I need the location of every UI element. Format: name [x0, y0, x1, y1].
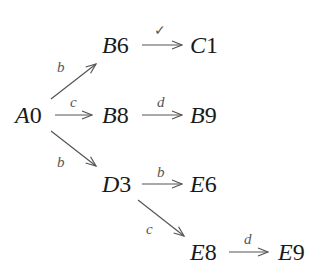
node-d3: D3 — [102, 172, 131, 196]
node-number: 3 — [119, 171, 131, 197]
edge-label-e8-e9: d — [244, 232, 252, 247]
node-number: 9 — [205, 102, 217, 128]
edge-layer — [0, 0, 323, 276]
node-number: 8 — [117, 102, 129, 128]
node-number: 6 — [117, 32, 129, 58]
checkmark-icon: ✓ — [154, 24, 166, 38]
node-e8: E8 — [190, 240, 217, 264]
edge-label-d3-e6: b — [157, 165, 165, 180]
node-letter: C — [190, 32, 206, 58]
node-number: 6 — [205, 171, 217, 197]
node-letter: D — [102, 171, 119, 197]
node-letter: B — [102, 102, 117, 128]
node-letter: E — [190, 239, 205, 265]
edge-label-a0-b6: b — [57, 60, 65, 75]
node-number: 0 — [30, 102, 42, 128]
node-c1: C1 — [190, 33, 218, 57]
node-letter: B — [190, 102, 205, 128]
edge-d3-e8 — [138, 200, 184, 236]
node-number: 9 — [293, 239, 305, 265]
node-e9: E9 — [278, 240, 305, 264]
node-letter: E — [190, 171, 205, 197]
node-e6: E6 — [190, 172, 217, 196]
node-letter: A — [15, 102, 30, 128]
edge-label-a0-b8: c — [70, 95, 77, 110]
node-letter: B — [102, 32, 117, 58]
node-number: 1 — [206, 32, 218, 58]
node-a0: A0 — [15, 103, 42, 127]
edge-label-d3-e8: c — [146, 222, 153, 237]
edge-label-a0-d3: b — [57, 155, 65, 170]
node-b8: B8 — [102, 103, 129, 127]
node-b6: B6 — [102, 33, 129, 57]
node-b9: B9 — [190, 103, 217, 127]
edge-label-b8-b9: d — [157, 95, 165, 110]
node-number: 8 — [205, 239, 217, 265]
node-letter: E — [278, 239, 293, 265]
